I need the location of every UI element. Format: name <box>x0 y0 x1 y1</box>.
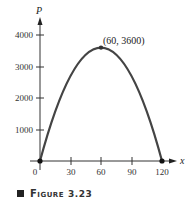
origin-point <box>37 158 42 163</box>
vertex-annotation: (60, 3600) <box>103 35 145 47</box>
x-tick-label-60: 60 <box>97 167 107 177</box>
y-axis-label: P <box>35 5 42 16</box>
caption-figure-number: 3.23 <box>68 189 92 199</box>
x-tick-label-30: 30 <box>67 167 77 177</box>
x-tick-label-120: 120 <box>155 167 169 177</box>
x-tick-label-90: 90 <box>128 167 138 177</box>
y-tick-label-3000: 3000 <box>15 62 34 72</box>
x-axis-arrow-icon <box>169 159 177 164</box>
origin-label: 0 <box>33 167 38 177</box>
caption-figure-word: Figure <box>30 188 64 199</box>
y-axis-arrow-icon <box>38 17 43 25</box>
profit-curve <box>40 48 162 161</box>
chart-canvas: P x 4000 3000 2000 1000 0 30 60 90 120 (… <box>0 0 189 204</box>
root-point <box>159 158 164 163</box>
caption-square-icon <box>17 190 24 197</box>
x-axis-label: x <box>179 155 185 166</box>
y-tick-label-2000: 2000 <box>15 93 34 103</box>
figure-caption: Figure 3.23 <box>17 188 92 199</box>
y-tick-label-1000: 1000 <box>15 125 34 135</box>
vertex-point <box>99 45 103 49</box>
y-tick-label-4000: 4000 <box>15 30 34 40</box>
